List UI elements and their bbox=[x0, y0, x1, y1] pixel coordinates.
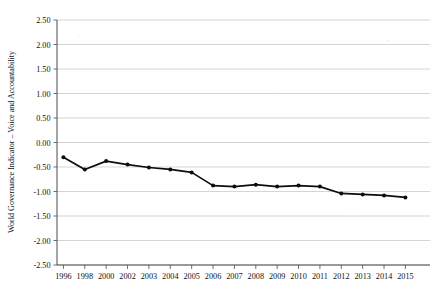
y-tick-label: -1.50 bbox=[33, 212, 50, 221]
data-point-marker bbox=[339, 191, 343, 195]
line-chart: 2.502.001.501.000.500.00-0.50-1.00-1.50-… bbox=[0, 0, 440, 297]
x-tick-label: 2008 bbox=[248, 272, 264, 281]
x-tick-label: 2009 bbox=[269, 272, 285, 281]
y-tick-label: -2.50 bbox=[33, 261, 50, 270]
data-point-marker bbox=[232, 185, 236, 189]
data-point-marker bbox=[190, 170, 194, 174]
data-point-marker bbox=[382, 193, 386, 197]
x-tick-label: 2006 bbox=[205, 272, 221, 281]
x-tick-label: 2004 bbox=[162, 272, 178, 281]
data-point-marker bbox=[104, 159, 108, 163]
x-tick-labels-group: 1996199820002002200320042005200620072008… bbox=[55, 272, 413, 281]
figure-page: 2.502.001.501.000.500.00-0.50-1.00-1.50-… bbox=[0, 0, 440, 297]
data-point-marker bbox=[168, 167, 172, 171]
x-tick-label: 2015 bbox=[397, 272, 413, 281]
paper-speck-3 bbox=[120, 278, 122, 280]
y-axis-title: World Governance Indicator – Voice and A… bbox=[7, 50, 16, 233]
x-tick-label: 2003 bbox=[141, 272, 157, 281]
paper-speck-1 bbox=[387, 40, 390, 42]
x-tick-label: 2013 bbox=[354, 272, 370, 281]
y-tick-label: -2.00 bbox=[33, 237, 50, 246]
data-point-marker bbox=[275, 185, 279, 189]
x-tick-label: 2000 bbox=[98, 272, 114, 281]
data-point-marker bbox=[147, 165, 151, 169]
data-point-marker bbox=[361, 192, 365, 196]
x-tickmarks-group bbox=[63, 265, 405, 269]
y-tick-label: 1.00 bbox=[36, 90, 50, 99]
paper-speck-2 bbox=[351, 210, 353, 212]
x-tick-label: 2011 bbox=[312, 272, 328, 281]
y-tick-labels-group: 2.502.001.501.000.500.00-0.50-1.00-1.50-… bbox=[33, 16, 50, 270]
x-tick-label: 2007 bbox=[226, 272, 242, 281]
data-point-marker bbox=[211, 184, 215, 188]
data-point-marker bbox=[403, 195, 407, 199]
y-tick-label: -0.50 bbox=[33, 163, 50, 172]
x-tick-label: 2012 bbox=[333, 272, 349, 281]
y-tickmarks-group bbox=[54, 20, 58, 265]
gridlines-group bbox=[57, 20, 430, 265]
data-point-marker bbox=[126, 163, 130, 167]
y-tick-label: -1.00 bbox=[33, 188, 50, 197]
x-tick-label: 2005 bbox=[183, 272, 199, 281]
x-tick-label: 2010 bbox=[290, 272, 306, 281]
y-tick-label: 1.50 bbox=[36, 65, 50, 74]
y-tick-label: 0.00 bbox=[36, 139, 50, 148]
data-point-marker bbox=[254, 183, 258, 187]
data-point-marker bbox=[61, 155, 65, 159]
data-point-marker bbox=[318, 185, 322, 189]
y-tick-label: 0.50 bbox=[36, 114, 50, 123]
x-tick-label: 2014 bbox=[376, 272, 392, 281]
x-tick-label: 1998 bbox=[77, 272, 93, 281]
y-tick-label: 2.00 bbox=[36, 41, 50, 50]
x-tick-label: 1996 bbox=[55, 272, 71, 281]
data-point-marker bbox=[83, 167, 87, 171]
data-point-marker bbox=[297, 184, 301, 188]
y-tick-label: 2.50 bbox=[36, 16, 50, 25]
x-tick-label: 2002 bbox=[119, 272, 135, 281]
